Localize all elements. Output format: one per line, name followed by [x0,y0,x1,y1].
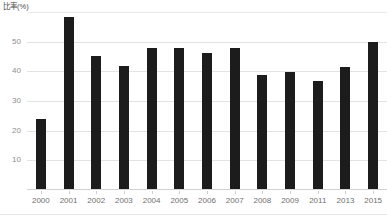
x-axis-tick-label: 2011 [304,196,332,205]
x-axis-tick-mark [41,191,42,194]
bar [230,48,240,189]
bar [202,53,212,189]
x-axis-tick-label: 2002 [82,196,110,205]
x-axis-tick-mark [207,191,208,194]
x-axis-tick-mark [179,191,180,194]
x-axis-tick-label: 2006 [193,196,221,205]
x-axis-tick-mark [235,191,236,194]
bar [340,67,350,189]
x-axis: 2000200120022003200420052006200720082009… [27,191,387,207]
x-axis-baseline [27,189,387,190]
y-axis-tick-label: 40 [12,67,21,75]
x-axis-tick-mark [124,191,125,194]
bar [174,48,184,189]
bar [313,81,323,189]
bar [91,56,101,190]
x-axis-tick-mark [373,191,374,194]
x-axis-tick-mark [152,191,153,194]
y-axis-tick-label: 30 [12,97,21,105]
x-axis-tick-mark [69,191,70,194]
x-axis-tick-mark [318,191,319,194]
x-axis-tick-label: 2009 [276,196,304,205]
x-axis-tick-label: 2000 [27,196,55,205]
x-axis-tick-label: 2001 [55,196,83,205]
bar [119,66,129,189]
bar [147,48,157,189]
x-axis-tick-label: 2007 [221,196,249,205]
x-axis-tick-label: 2015 [359,196,387,205]
x-axis-tick-label: 2008 [249,196,277,205]
y-axis-tick-label: 10 [12,156,21,164]
figure-bottom-rule [0,214,387,215]
y-axis-tick-label: 20 [12,127,21,135]
bar-chart-figure: 比率(%) 5040302010 20002001200220032004200… [0,0,387,218]
bar [64,17,74,189]
bar [285,72,295,189]
x-axis-tick-mark [262,191,263,194]
y-axis-tick-labels: 5040302010 [0,12,21,190]
y-axis-title: 比率(%) [3,2,29,12]
x-axis-tick-label: 2004 [138,196,166,205]
bar [36,119,46,189]
bar [368,42,378,189]
bars-layer [27,12,387,190]
x-axis-tick-label: 2003 [110,196,138,205]
bar [257,75,267,189]
x-axis-tick-mark [290,191,291,194]
x-axis-tick-label: 2013 [332,196,360,205]
x-axis-tick-label: 2005 [165,196,193,205]
y-axis-tick-label: 50 [12,38,21,46]
plot-area [27,12,387,190]
x-axis-tick-mark [96,191,97,194]
x-axis-tick-mark [345,191,346,194]
